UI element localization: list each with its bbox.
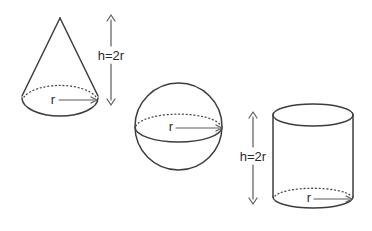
sphere-equator-hidden-arc xyxy=(136,114,221,126)
cylinder-height-label: h=2r xyxy=(240,149,267,164)
cone-height-label: h=2r xyxy=(98,48,125,63)
cone-figure: h=2r r xyxy=(22,15,125,116)
cylinder-figure: h=2r r xyxy=(240,104,353,208)
cone-base-hidden-arc xyxy=(24,85,96,97)
cone-radius-label: r xyxy=(51,92,56,107)
cylinder-radius-arrow xyxy=(314,196,352,202)
sphere-radius-arrow xyxy=(176,125,222,131)
sphere-radius-label: r xyxy=(169,119,174,134)
cylinder-bottom-hidden-arc xyxy=(275,188,351,196)
sphere-figure: r xyxy=(135,83,222,170)
sphere-equator-front-arc xyxy=(135,127,222,142)
cone-left-slant xyxy=(22,18,60,96)
sphere-outline xyxy=(135,83,222,170)
cylinder-radius-label: r xyxy=(307,190,312,205)
solids-diagram-svg: h=2r r r xyxy=(0,0,372,231)
cylinder-top-ellipse xyxy=(273,104,353,126)
cone-base-front-arc xyxy=(22,98,98,116)
cone-radius-arrow xyxy=(59,97,97,103)
cone-right-slant xyxy=(60,18,98,96)
solids-diagram: h=2r r r xyxy=(0,0,372,231)
